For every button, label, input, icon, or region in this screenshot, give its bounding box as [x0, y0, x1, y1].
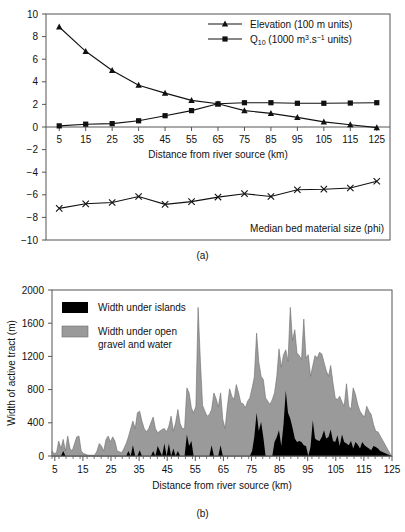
marker-square: [374, 100, 379, 105]
marker-square: [321, 101, 326, 106]
x-tick-label-b: 35: [134, 464, 146, 475]
legend-label-elevation: Elevation (100 m units): [250, 19, 352, 30]
marker-square: [222, 36, 227, 41]
panel-a-line-chart: −10−8−6−4−202468105152535455565758595105…: [0, 0, 405, 268]
annotation-phi-label: Median bed material size (phi): [250, 223, 384, 234]
y-tick-label-a: 2: [32, 99, 38, 110]
x-tick-label-a: 15: [80, 134, 92, 145]
x-axis-title-a: Distance from river source (km): [148, 149, 287, 160]
x-axis-title-b: Distance from river source (km): [152, 480, 291, 491]
marker-square: [162, 113, 167, 118]
x-tick-label-b: 45: [162, 464, 174, 475]
y-tick-label-b: 1600: [22, 318, 45, 329]
legend-label-gravel-line2: gravel and water: [98, 339, 173, 350]
x-tick-label-b: 125: [384, 464, 401, 475]
x-tick-label-a: 55: [186, 134, 198, 145]
legend-swatch-gravel: [62, 326, 88, 337]
marker-square: [110, 121, 115, 126]
marker-square: [57, 123, 62, 128]
marker-square: [295, 101, 300, 106]
panel-b-caption: (b): [0, 508, 405, 519]
y-tick-label-b: 400: [27, 417, 44, 428]
y-tick-label-a: −6: [27, 189, 39, 200]
y-tick-label-a: −2: [27, 144, 39, 155]
marker-square: [242, 100, 247, 105]
marker-square: [215, 101, 220, 106]
y-tick-label-a: 0: [32, 122, 38, 133]
x-tick-label-b: 5: [52, 464, 58, 475]
x-tick-label-b: 55: [190, 464, 202, 475]
marker-triangle: [56, 24, 62, 30]
legend-label-q10: Q10 (1000 m3.s−1 units): [250, 34, 352, 47]
x-tick-label-b: 105: [327, 464, 344, 475]
marker-triangle: [135, 82, 141, 88]
y-tick-label-b: 2000: [22, 285, 45, 296]
series-1: [57, 100, 380, 128]
x-tick-label-a: 115: [342, 134, 358, 145]
x-tick-label-b: 75: [246, 464, 258, 475]
marker-square: [189, 108, 194, 113]
x-tick-label-b: 85: [274, 464, 286, 475]
panel-a-caption: (a): [0, 250, 405, 261]
marker-square: [83, 122, 88, 127]
series-2: [56, 178, 380, 212]
x-tick-label-a: 105: [316, 134, 333, 145]
x-tick-label-b: 95: [302, 464, 314, 475]
marker-square: [268, 100, 273, 105]
y-tick-label-a: 10: [27, 9, 39, 20]
x-tick-label-a: 95: [292, 134, 304, 145]
panel-b-svg: 0400800120016002000515253545556575859510…: [0, 268, 405, 506]
x-tick-label-b: 115: [356, 464, 372, 475]
x-tick-label-a: 45: [160, 134, 172, 145]
x-tick-label-a: 5: [56, 134, 62, 145]
y-tick-label-a: 6: [32, 54, 38, 65]
x-tick-label-a: 65: [212, 134, 224, 145]
x-tick-label-a: 25: [107, 134, 119, 145]
x-tick-label-a: 35: [133, 134, 145, 145]
y-tick-label-a: −10: [21, 235, 38, 246]
x-tick-label-a: 125: [368, 134, 385, 145]
y-tick-label-a: 8: [32, 31, 38, 42]
legend-swatch-islands: [62, 302, 88, 313]
series-line: [59, 181, 377, 208]
panel-b-area-chart: 0400800120016002000515253545556575859510…: [0, 268, 405, 532]
legend-label-islands: Width under islands: [98, 302, 186, 313]
y-axis-title-b: Width of active tract (m): [6, 320, 17, 426]
y-tick-label-a: −4: [27, 167, 39, 178]
x-tick-label-b: 65: [218, 464, 230, 475]
legend-a: [208, 21, 242, 42]
y-tick-label-b: 0: [38, 451, 44, 462]
y-tick-label-b: 800: [27, 384, 44, 395]
marker-triangle: [109, 67, 115, 73]
y-tick-label-a: −8: [27, 212, 39, 223]
x-tick-label-b: 25: [105, 464, 117, 475]
y-tick-label-b: 1200: [22, 351, 45, 362]
y-tick-label-a: 4: [32, 76, 38, 87]
marker-square: [348, 100, 353, 105]
legend-label-gravel-line1: Width under open: [98, 326, 177, 337]
x-tick-label-a: 85: [265, 134, 277, 145]
x-tick-label-a: 75: [239, 134, 251, 145]
x-tick-label-b: 15: [77, 464, 89, 475]
panel-a-svg: −10−8−6−4−202468105152535455565758595105…: [0, 0, 405, 250]
marker-square: [136, 118, 141, 123]
